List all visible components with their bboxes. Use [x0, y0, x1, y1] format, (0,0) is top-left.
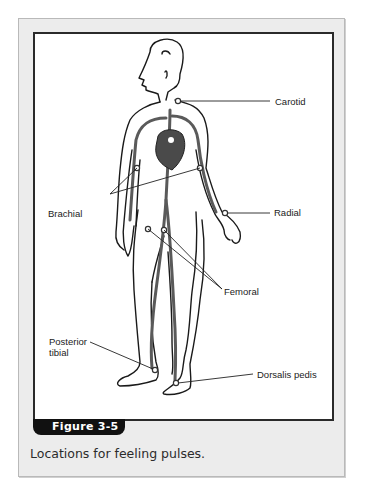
- figure-number-tab: Figure 3-5: [33, 419, 125, 435]
- label-dorsalis-pedis: Dorsalis pedis: [257, 369, 317, 380]
- pulse-point-dorsalis-pedis: [173, 380, 178, 385]
- pulse-point-posterior-tibial: [152, 367, 157, 372]
- leader-dorsalis-pedis: [178, 374, 253, 383]
- heart: [156, 130, 185, 170]
- label-femoral: Femoral: [224, 286, 259, 297]
- leader-posterior-tibial: [90, 342, 153, 369]
- pulse-point-carotid: [175, 98, 180, 103]
- torso-outline: [116, 102, 160, 250]
- pulse-point-radial: [222, 210, 227, 215]
- label-posterior-tibial-line1: Posterior: [49, 336, 87, 347]
- head-outline: [139, 39, 183, 102]
- label-posterior-tibial-line2: tibial: [49, 347, 69, 358]
- label-carotid: Carotid: [275, 96, 306, 107]
- figure-caption: Locations for feeling pulses.: [30, 446, 205, 461]
- label-brachial: Brachial: [48, 208, 82, 219]
- label-radial: Radial: [274, 207, 301, 218]
